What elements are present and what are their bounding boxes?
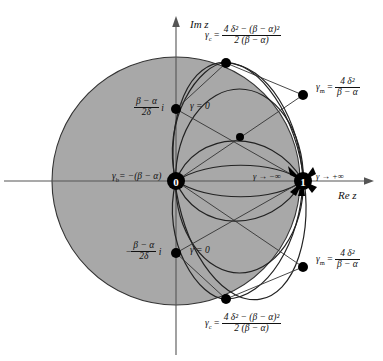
gamma-c-top-label: γc = 4 δ² − (β − α)² 2 (β − α) xyxy=(205,26,281,47)
gamma-c-top-numerator: 4 δ² − (β − α)² xyxy=(222,25,282,36)
gamma-c-top-denominator: 2 (β − α) xyxy=(222,36,282,46)
marker-gamma-m-top xyxy=(298,90,308,100)
real-axis-arrowhead xyxy=(364,177,374,185)
gamma-c-bottom-label: γc = 4 δ² − (β − α)² 2 (β − α) xyxy=(205,314,281,335)
marker-imag-lower xyxy=(171,248,181,258)
gamma-minus-infinity-label: γ → −∞ xyxy=(253,172,281,181)
upper-imag-numerator: β − α xyxy=(134,97,159,108)
origin-point-label: 0 xyxy=(173,176,179,188)
lower-imag-denominator: 2δ xyxy=(131,252,156,262)
unit-point-label: 1 xyxy=(300,176,306,188)
gamma-c-bottom-denominator: 2 (β − α) xyxy=(222,324,282,334)
gamma-b-label: γb= −(β − α) xyxy=(112,172,161,184)
gamma-m-top-equals: = xyxy=(327,82,332,92)
marker-crossing xyxy=(236,133,244,141)
gamma-m-top-numerator: 4 δ² xyxy=(335,77,360,88)
marker-gamma-c-top xyxy=(221,58,231,68)
gamma-c-bottom-numerator: 4 δ² − (β − α)² xyxy=(222,313,282,324)
gamma-zero-upper-label: γ = 0 xyxy=(190,102,210,112)
gamma-c-bottom-equals: = xyxy=(214,318,219,328)
real-axis-label: Re z xyxy=(338,190,357,202)
gamma-c-top-subscript: c xyxy=(209,35,212,42)
gamma-m-top-subscript: m xyxy=(320,87,325,94)
gamma-plus-infinity-label: γ → +∞ xyxy=(316,172,344,181)
gamma-c-bottom-subscript: c xyxy=(209,323,212,330)
figure-canvas: 0 1 Im z Re z γc = 4 δ² − (β − α)² 2 (β … xyxy=(0,0,383,361)
gamma-zero-lower-label: γ = 0 xyxy=(190,246,210,256)
gamma-m-bottom-equals: = xyxy=(327,254,332,264)
gamma-m-bottom-denominator: β − α xyxy=(335,260,360,270)
marker-gamma-m-bottom xyxy=(298,262,308,272)
gamma-m-bottom-subscript: m xyxy=(320,259,325,266)
gamma-b-rhs: = −(β − α) xyxy=(119,171,161,181)
marker-imag-upper xyxy=(171,104,181,114)
upper-imaginary-value-label: β − α 2δ i xyxy=(134,98,164,119)
gamma-c-top-equals: = xyxy=(214,30,219,40)
gamma-m-bottom-numerator: 4 δ² xyxy=(335,249,360,260)
marker-gamma-c-bottom xyxy=(221,294,231,304)
lower-imaginary-value-label: − β − α 2δ i xyxy=(126,242,161,263)
gamma-m-top-label: γm = 4 δ² β − α xyxy=(316,78,360,99)
gamma-m-top-denominator: β − α xyxy=(335,88,360,98)
lower-imag-numerator: β − α xyxy=(131,241,156,252)
upper-imag-denominator: 2δ xyxy=(134,108,159,118)
imaginary-axis-arrowhead xyxy=(172,16,180,27)
lower-imag-unit: i xyxy=(159,247,162,257)
gamma-m-bottom-label: γm = 4 δ² β − α xyxy=(316,250,360,271)
upper-imag-unit: i xyxy=(161,103,164,113)
